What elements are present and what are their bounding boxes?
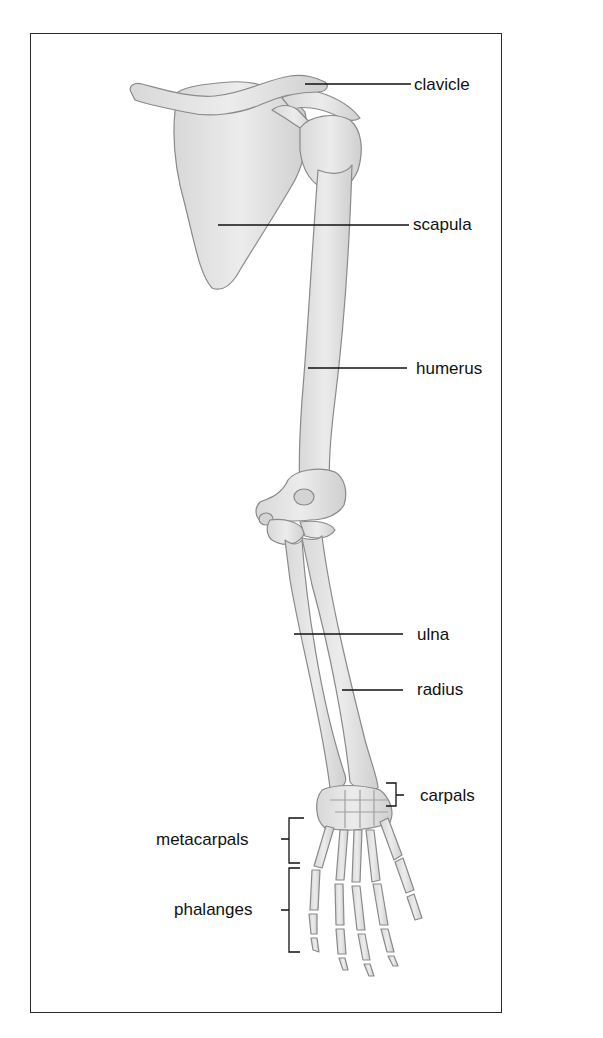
label-carpals: carpals bbox=[420, 787, 475, 804]
label-metacarpals: metacarpals bbox=[156, 831, 249, 848]
humerus-bone bbox=[299, 165, 352, 485]
label-humerus: humerus bbox=[416, 360, 482, 377]
label-ulna: ulna bbox=[417, 626, 449, 643]
arm-skeleton-illustration bbox=[0, 0, 603, 1038]
label-phalanges: phalanges bbox=[174, 901, 252, 918]
phalanges-bones bbox=[309, 858, 422, 976]
label-scapula: scapula bbox=[413, 216, 472, 233]
label-radius: radius bbox=[417, 681, 463, 698]
metacarpals-bones bbox=[314, 826, 334, 868]
label-clavicle: clavicle bbox=[414, 76, 470, 93]
